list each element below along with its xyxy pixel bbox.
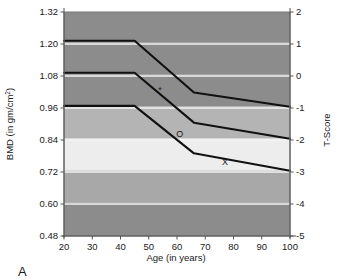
y2-tick-label: 2 xyxy=(296,6,301,17)
x-tick-label: 60 xyxy=(172,241,183,252)
band-tm2-to-tm3 xyxy=(64,139,290,171)
x-axis-title: Age (in years) xyxy=(146,252,205,263)
y2-axis-title: T-Score xyxy=(321,113,332,146)
band-t2-to-t1 xyxy=(64,12,290,43)
x-tick-label: 30 xyxy=(87,241,98,252)
y-tick-label: 1.20 xyxy=(40,38,59,49)
curve-middle-marker-circle-icon: O xyxy=(176,129,183,139)
y2-tick-label: -1 xyxy=(296,102,304,113)
x-tick-label: 90 xyxy=(256,241,267,252)
y-axis-right: -5-4-3-2-1012 xyxy=(290,6,304,241)
y2-tick-label: -4 xyxy=(296,198,304,209)
y-axis-left: 0.480.600.720.840.961.081.201.32 xyxy=(40,6,65,241)
y-tick-label: 0.48 xyxy=(40,230,59,241)
band-tm3-to-tm4 xyxy=(64,171,290,203)
curve-lower-marker-cross-icon: X xyxy=(222,157,228,167)
y-tick-label: 1.32 xyxy=(40,6,59,17)
x-tick-label: 50 xyxy=(143,241,154,252)
plot-background-bands xyxy=(64,12,290,236)
curve-upper-marker-asterisk-icon: * xyxy=(158,85,162,95)
band-tm4-to-tm5 xyxy=(64,203,290,236)
x-tick-label: 40 xyxy=(115,241,126,252)
y2-tick-label: -5 xyxy=(296,230,304,241)
x-axis: 2030405060708090100 xyxy=(59,236,298,252)
y-tick-label: 0.84 xyxy=(40,134,59,145)
y2-tick-label: -3 xyxy=(296,166,304,177)
y2-tick-label: 0 xyxy=(296,70,301,81)
bmd-vs-age-chart: *OX 2030405060708090100 0.480.600.720.84… xyxy=(0,0,340,280)
y-axis-title: BMD (in gm/cm2) xyxy=(4,88,15,160)
y-tick-label: 0.96 xyxy=(40,102,59,113)
y-tick-label: 0.72 xyxy=(40,166,59,177)
y2-tick-label: 1 xyxy=(296,38,301,49)
x-tick-label: 20 xyxy=(59,241,70,252)
band-t1-to-t0 xyxy=(64,43,290,75)
panel-label: A xyxy=(18,264,27,279)
x-tick-label: 70 xyxy=(200,241,211,252)
x-tick-label: 80 xyxy=(228,241,239,252)
x-tick-label: 100 xyxy=(282,241,298,252)
y-tick-label: 1.08 xyxy=(40,70,59,81)
y2-tick-label: -2 xyxy=(296,134,304,145)
chart-panel: *OX 2030405060708090100 0.480.600.720.84… xyxy=(0,0,340,280)
y-tick-label: 0.60 xyxy=(40,198,59,209)
